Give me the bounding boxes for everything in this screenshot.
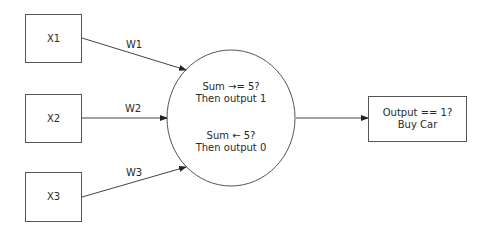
neuron-rule-1-condition: Sum →= 5? [171,81,291,93]
input-box-x3: X3 [25,172,82,222]
weight-label-w2: W2 [125,103,141,115]
output-condition: Output == 1? [383,107,453,119]
neuron-rule-1-result: Then output 1 [171,93,291,105]
input-label-x1: X1 [47,33,60,45]
input-box-x1: X1 [25,14,82,63]
neuron-rule-2-result: Then output 0 [171,142,291,154]
input-label-x2: X2 [47,113,60,125]
output-action: Buy Car [398,119,438,131]
weight-label-w1: W1 [126,39,142,51]
input-label-x3: X3 [47,191,60,203]
input-box-x2: X2 [25,94,82,143]
output-box: Output == 1? Buy Car [368,96,467,142]
perceptron-diagram: X1 X2 X3 W1 W2 W3 Sum →= 5? Then output … [0,0,490,234]
neuron-rule-2: Sum ← 5? Then output 0 [171,130,291,154]
neuron-circle [167,50,295,186]
weight-label-w3: W3 [126,167,142,179]
neuron-rule-2-condition: Sum ← 5? [171,130,291,142]
neuron-rule-1: Sum →= 5? Then output 1 [171,81,291,105]
